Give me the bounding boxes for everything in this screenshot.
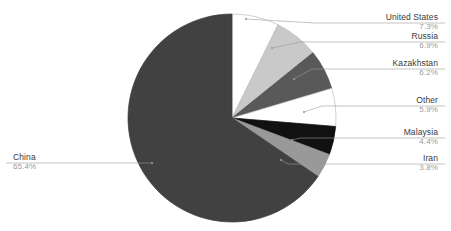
leader-dot-malaysia [291,139,293,141]
pie-label-malaysia: Malaysia4.4% [404,127,438,147]
pie-label-name: Kazakhstan [393,58,438,68]
pie-label-name: Other [416,95,438,105]
pie-label-russia: Russia6.9% [411,31,438,51]
leader-dot-russia [271,47,273,49]
pie-label-name: Iran [419,153,438,163]
pie-label-other: Other5.9% [416,95,438,115]
pie-label-value: 3.8% [419,163,438,173]
pie-label-name: United States [386,12,438,22]
pie-label-china: China65.4% [13,152,36,172]
leader-dot-china [151,162,153,164]
pie-label-value: 5.9% [416,105,438,115]
leader-dot-iran [280,159,282,161]
pie-label-value: 65.4% [13,162,36,172]
pie-chart-canvas [0,0,451,231]
pie-label-name: China [13,152,36,162]
pie-label-value: 4.4% [404,137,438,147]
pie-label-kazakhstan: Kazakhstan6.2% [393,58,438,78]
pie-label-iran: Iran3.8% [419,153,438,173]
pie-label-value: 6.2% [393,68,438,78]
pie-label-value: 6.9% [411,41,438,51]
pie-slices-group [128,14,336,222]
pie-label-name: Russia [411,31,438,41]
pie-label-name: Malaysia [404,127,438,137]
leader-dot-united-states [245,18,247,20]
leader-dot-other [303,111,305,113]
leader-dot-kazakhstan [293,78,295,80]
pie-chart: United States7.3%Russia6.9%Kazakhstan6.2… [0,0,451,231]
pie-label-united-states: United States7.3% [386,12,438,32]
